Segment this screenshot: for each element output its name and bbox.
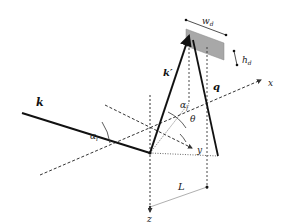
origin-to-q-end-projection bbox=[150, 153, 218, 156]
incident-wavevector-k bbox=[22, 113, 150, 153]
y-axis bbox=[105, 105, 192, 148]
label-detector-height: hd bbox=[242, 55, 252, 66]
label-distance-L: L bbox=[177, 181, 185, 192]
label-theta: θ bbox=[190, 114, 196, 124]
label-q: q bbox=[213, 81, 220, 92]
label-detector-width: wd bbox=[202, 16, 214, 27]
label-alpha-i: αi bbox=[90, 131, 98, 142]
scattering-vector-q bbox=[193, 40, 218, 156]
label-z-axis: z bbox=[146, 214, 152, 224]
label-k: k bbox=[36, 96, 44, 109]
in-plane-angle-arc bbox=[180, 134, 186, 142]
label-y-axis: y bbox=[196, 145, 203, 155]
detector-height-dimension bbox=[234, 51, 237, 65]
exit-angle-arc bbox=[168, 112, 186, 128]
scattered-wavevector-k-prime bbox=[150, 36, 189, 153]
detector-panel bbox=[186, 29, 224, 60]
scattering-geometry-diagram: k k′ q αi αf θ x y z wd hd L bbox=[0, 0, 293, 224]
label-k-prime: k′ bbox=[163, 67, 173, 78]
origin-point bbox=[148, 151, 151, 154]
label-x-axis: x bbox=[268, 78, 273, 88]
origin-to-exit-projection bbox=[150, 103, 189, 153]
